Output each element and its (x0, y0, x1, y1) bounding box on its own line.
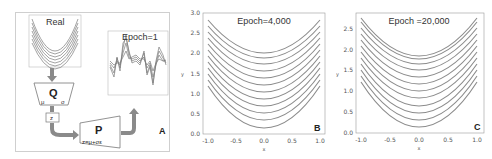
svg-text:y: y (181, 71, 184, 78)
svg-text:-0.5: -0.5 (230, 137, 242, 144)
svg-text:-1.0: -1.0 (355, 136, 367, 143)
panel-c-chart: 0.0 0.5 1.0 1.5 2.0 2.5 y -1.0 -0.5 0.0 … (336, 0, 486, 159)
panel-b-title: Epoch=4,000 (237, 16, 290, 26)
svg-text:-1.0: -1.0 (202, 137, 214, 144)
svg-text:x: x (418, 145, 421, 151)
svg-text:0.5: 0.5 (343, 108, 353, 115)
svg-text:Q: Q (49, 87, 58, 99)
svg-text:μ: μ (41, 99, 45, 105)
panel-a-diagram: Real Q μ σ z P z=μ+σε (16, 13, 171, 153)
svg-text:1.0: 1.0 (343, 87, 353, 94)
epoch1-plot: Epoch=1 (108, 31, 168, 95)
svg-text:2.5: 2.5 (343, 25, 353, 32)
svg-text:1.5: 1.5 (190, 70, 200, 77)
svg-text:-0.5: -0.5 (384, 136, 396, 143)
svg-text:P: P (95, 124, 102, 136)
svg-text:0.5: 0.5 (443, 136, 453, 143)
svg-text:3.0: 3.0 (190, 9, 200, 16)
svg-text:z: z (50, 115, 53, 121)
svg-text:z=μ+σε: z=μ+σε (82, 139, 102, 145)
svg-text:x: x (263, 146, 266, 152)
svg-text:y: y (336, 71, 339, 78)
panel-b: 0.0 0.5 1.0 1.5 2.0 2.5 3.0 y -1.0 -0.5 … (178, 0, 328, 159)
panel-a: Real Q μ σ z P z=μ+σε (15, 12, 170, 152)
svg-text:σ: σ (61, 99, 65, 105)
panel-c-label: C (474, 122, 481, 132)
real-title: Real (46, 17, 65, 27)
svg-text:1.0: 1.0 (315, 137, 325, 144)
svg-text:0.5: 0.5 (190, 110, 200, 117)
svg-text:2.0: 2.0 (190, 49, 200, 56)
svg-text:1.0: 1.0 (190, 90, 200, 97)
real-data-plot: Real (29, 15, 81, 69)
svg-text:0.0: 0.0 (259, 137, 269, 144)
panel-c-title: Epoch =20,000 (389, 16, 450, 26)
svg-text:0.5: 0.5 (287, 137, 297, 144)
svg-text:0.0: 0.0 (343, 129, 353, 136)
svg-text:2.5: 2.5 (190, 29, 200, 36)
panel-c: 0.0 0.5 1.0 1.5 2.0 2.5 y -1.0 -0.5 0.0 … (336, 0, 486, 159)
panel-a-label: A (159, 126, 166, 136)
epoch1-title: Epoch=1 (122, 32, 158, 42)
decoder-p: P z=μ+σε (80, 116, 120, 148)
latent-z: z (46, 113, 59, 122)
svg-text:1.0: 1.0 (472, 136, 482, 143)
svg-text:0.0: 0.0 (190, 130, 200, 137)
svg-text:2.0: 2.0 (343, 46, 353, 53)
panel-b-chart: 0.0 0.5 1.0 1.5 2.0 2.5 3.0 y -1.0 -0.5 … (178, 0, 328, 159)
svg-text:1.5: 1.5 (343, 66, 353, 73)
svg-text:0.0: 0.0 (414, 136, 424, 143)
panel-b-label: B (314, 123, 321, 133)
encoder-q: Q μ σ (34, 83, 74, 105)
